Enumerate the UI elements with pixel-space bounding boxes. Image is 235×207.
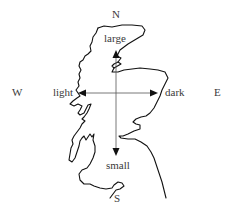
compass-south: S — [114, 192, 120, 204]
label-light: light — [53, 86, 73, 98]
compass-east: E — [214, 86, 221, 98]
compass-north: N — [112, 8, 120, 20]
label-small: small — [106, 159, 130, 171]
compass-west: W — [12, 86, 23, 98]
arrow-down-icon — [113, 148, 120, 156]
scotland-map-outline — [69, 25, 168, 198]
arrow-right-icon — [150, 90, 158, 97]
colour-axis — [78, 90, 158, 97]
label-dark: dark — [165, 86, 185, 98]
label-large: large — [104, 32, 126, 44]
scotland-gradient-diagram: large small light dark N S W E — [0, 0, 235, 207]
